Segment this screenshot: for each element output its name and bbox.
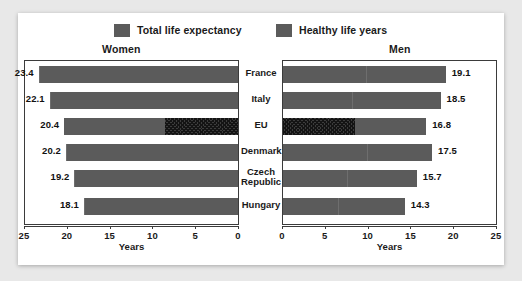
bar-value-label: 19.1 bbox=[452, 67, 471, 78]
bar-segment-total-life-expectancy bbox=[366, 66, 446, 83]
bar-value-label: 16.8 bbox=[432, 119, 451, 130]
plot-area-women: 23.422.120.420.219.218.1 bbox=[24, 60, 239, 225]
axis-tick-mark bbox=[110, 226, 111, 229]
category-label-czech-republic: CzechRepublic bbox=[241, 167, 281, 187]
legend-swatch-healthy-life-years bbox=[276, 24, 292, 37]
bar-row: 17.5 bbox=[283, 144, 496, 161]
bar-value-label: 15.7 bbox=[423, 171, 442, 182]
bar-segment-total-life-expectancy bbox=[74, 170, 160, 187]
category-labels: FranceItalyEUDenmarkCzechRepublicHungary bbox=[241, 60, 281, 225]
bar-row: 18.1 bbox=[25, 198, 238, 215]
axis-tick-label: 20 bbox=[61, 230, 72, 241]
bar-segment-total-life-expectancy bbox=[84, 198, 162, 215]
axis-tick-mark bbox=[152, 226, 153, 229]
axis-title-women: Years bbox=[24, 241, 239, 252]
x-axis-men: Years 0510152025 bbox=[282, 226, 497, 252]
legend-item-total-life-expectancy: Total life expectancy bbox=[114, 21, 242, 39]
bar-value-label: 18.5 bbox=[447, 93, 466, 104]
bar-segment-total-life-expectancy bbox=[367, 144, 432, 161]
axis-tick-mark bbox=[282, 226, 283, 229]
bar-row: 23.4 bbox=[25, 66, 238, 83]
bar-value-label: 19.2 bbox=[51, 171, 70, 182]
bar-italy bbox=[283, 92, 441, 109]
legend-swatch-total-life-expectancy bbox=[114, 24, 130, 37]
bar-hungary bbox=[283, 198, 405, 215]
bar-france bbox=[283, 66, 446, 83]
category-label-italy: Italy bbox=[241, 94, 281, 104]
axis-tick-mark bbox=[24, 226, 25, 229]
bar-segment-healthy-life-years bbox=[283, 198, 338, 215]
axis-tick-mark bbox=[496, 226, 497, 229]
bar-segment-healthy-life-years bbox=[283, 92, 352, 109]
bar-segment-total-life-expectancy bbox=[66, 144, 147, 161]
legend-label-total-life-expectancy: Total life expectancy bbox=[137, 24, 242, 36]
bar-segment-total-life-expectancy bbox=[50, 92, 146, 109]
x-axis-women: Years 2520151050 bbox=[24, 226, 239, 252]
axis-line-women bbox=[24, 226, 239, 227]
axis-tick-mark bbox=[453, 226, 454, 229]
bar-value-label: 20.4 bbox=[40, 119, 59, 130]
legend-label-healthy-life-years: Healthy life years bbox=[299, 24, 387, 36]
bar-row: 16.8 bbox=[283, 118, 496, 135]
bar-segment-healthy-life-years bbox=[162, 198, 238, 215]
axis-tick-label: 25 bbox=[491, 230, 502, 241]
chart-legend: Total life expectancy Healthy life years bbox=[18, 21, 504, 39]
bar-row: 22.1 bbox=[25, 92, 238, 109]
axis-tick-label: 10 bbox=[362, 230, 373, 241]
bar-row: 15.7 bbox=[283, 170, 496, 187]
axis-tick-label: 15 bbox=[405, 230, 416, 241]
axis-tick-mark bbox=[195, 226, 196, 229]
axis-tick-mark bbox=[368, 226, 369, 229]
bar-row: 20.4 bbox=[25, 118, 238, 135]
bar-hungary bbox=[84, 198, 238, 215]
bar-segment-healthy-life-years bbox=[141, 66, 238, 83]
axis-tick-label: 5 bbox=[192, 230, 197, 241]
bar-segment-healthy-life-years bbox=[283, 170, 347, 187]
bar-segment-healthy-life-years bbox=[146, 92, 238, 109]
panel-title-men: Men bbox=[389, 43, 411, 55]
bar-segment-total-life-expectancy bbox=[338, 198, 405, 215]
bar-row: 18.5 bbox=[283, 92, 496, 109]
axis-tick-mark bbox=[67, 226, 68, 229]
bar-czech-republic bbox=[283, 170, 417, 187]
legend-item-healthy-life-years: Healthy life years bbox=[276, 21, 387, 39]
chart-card: Total life expectancy Healthy life years… bbox=[18, 13, 504, 265]
bar-value-label: 18.1 bbox=[60, 199, 79, 210]
bar-segment-healthy-life-years bbox=[283, 66, 366, 83]
axis-tick-mark bbox=[410, 226, 411, 229]
bar-czech-republic bbox=[74, 170, 238, 187]
bar-eu bbox=[64, 118, 238, 135]
axis-title-men: Years bbox=[282, 241, 497, 252]
category-label-eu: EU bbox=[241, 120, 281, 130]
axis-tick-label: 25 bbox=[19, 230, 30, 241]
bar-row: 20.2 bbox=[25, 144, 238, 161]
bar-value-label: 14.3 bbox=[411, 199, 430, 210]
axis-tick-mark bbox=[325, 226, 326, 229]
bar-row: 14.3 bbox=[283, 198, 496, 215]
bar-denmark bbox=[66, 144, 238, 161]
axis-line-men bbox=[282, 226, 497, 227]
bar-segment-total-life-expectancy bbox=[347, 170, 416, 187]
bar-row: 19.2 bbox=[25, 170, 238, 187]
axis-tick-label: 0 bbox=[279, 230, 284, 241]
bar-segment-healthy-life-years bbox=[165, 118, 238, 135]
axis-tick-label: 5 bbox=[322, 230, 327, 241]
axis-tick-label: 15 bbox=[104, 230, 115, 241]
axis-tick-label: 20 bbox=[448, 230, 459, 241]
bar-denmark bbox=[283, 144, 432, 161]
axis-tick-label: 10 bbox=[147, 230, 158, 241]
bar-segment-healthy-life-years bbox=[160, 170, 238, 187]
bar-eu bbox=[283, 118, 426, 135]
bar-segment-healthy-life-years bbox=[147, 144, 238, 161]
bar-segment-healthy-life-years bbox=[283, 144, 367, 161]
category-label-france: France bbox=[241, 68, 281, 78]
bar-segment-total-life-expectancy bbox=[39, 66, 141, 83]
bar-segment-total-life-expectancy bbox=[64, 118, 165, 135]
bar-segment-total-life-expectancy bbox=[352, 92, 441, 109]
axis-tick-label: 0 bbox=[235, 230, 240, 241]
bar-segment-healthy-life-years bbox=[283, 118, 355, 135]
bar-france bbox=[39, 66, 238, 83]
bar-value-label: 22.1 bbox=[26, 93, 45, 104]
axis-tick-mark bbox=[238, 226, 239, 229]
category-label-hungary: Hungary bbox=[241, 200, 281, 210]
